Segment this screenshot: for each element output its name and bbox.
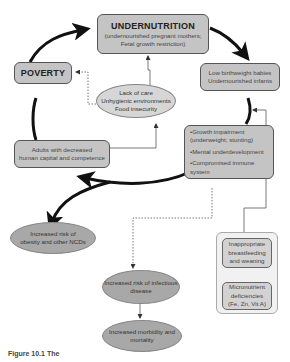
micronutrient-line-3: (Fe, Zn, Vit A) — [228, 300, 266, 308]
causes-line-2: Unhygienic environments — [101, 97, 170, 105]
morbidity-line-1: Increased morbidity and — [109, 328, 175, 336]
infectious-line-1: Increased risk of infectious — [104, 279, 177, 287]
node-obesity-risk: Increased risk of obesity and other NCDs — [10, 222, 96, 254]
micronutrient-line-2: deficiencies — [231, 292, 263, 300]
poverty-title: POVERTY — [21, 67, 65, 79]
node-breastfeeding: Inappropriate breastfeeding and weaning — [222, 238, 272, 268]
growth-bullet-1: •Growth impairment — [190, 128, 244, 136]
causes-line-3: Food insecurity — [115, 105, 157, 113]
cycle-arrow-growth-to-adults — [85, 172, 190, 183]
obesity-line-2: obesity and other NCDs — [20, 238, 86, 246]
adults-line-2: human capital and competence — [19, 154, 105, 162]
growth-bullet-1b: (underweight; stunting) — [190, 136, 253, 144]
node-causes: Lack of care Unhygienic environments Foo… — [96, 84, 176, 118]
cycle-arrow-lbw-to-growth — [246, 98, 250, 124]
link-growth-to-infectious — [133, 188, 212, 268]
lbw-line-2: Undernourished infants — [208, 77, 272, 85]
link-causes-to-undernutrition — [148, 56, 150, 88]
breastfeeding-line-2: breastfeeding — [228, 249, 266, 257]
node-growth-impairment: •Growth impairment (underweight; stuntin… — [184, 125, 274, 179]
growth-bullet-2: •Mental underdevelopment — [190, 148, 264, 156]
breastfeeding-line-1: Inappropriate — [229, 240, 265, 248]
growth-bullet-3: •Compromised immune system — [190, 159, 273, 176]
node-low-birthweight: Low birthweight babies Undernourished in… — [200, 63, 280, 91]
cycle-arrow-poverty-to-undernutrition — [30, 30, 82, 62]
node-adults: Adults with decreased human capital and … — [14, 140, 110, 168]
node-undernutrition: UNDERNUTRITION (undernourished pregnant … — [97, 14, 209, 54]
undernutrition-line-2: Fetal growth restriction) — [121, 40, 186, 48]
adults-line-1: Adults with decreased — [32, 146, 93, 154]
branch-arrow-to-obesity — [52, 182, 110, 222]
undernutrition-line-1: (undernourished pregnant mothers; — [105, 32, 202, 40]
causes-line-1: Lack of care — [119, 89, 153, 97]
link-causes-to-poverty — [76, 72, 96, 104]
micronutrient-line-1: Micronutrient — [229, 283, 265, 291]
breastfeeding-line-3: and weaning — [229, 257, 264, 265]
node-poverty: POVERTY — [14, 62, 72, 84]
node-micronutrient: Micronutrient deficiencies (Fe, Zn, Vit … — [222, 282, 272, 310]
obesity-line-1: Increased risk of — [30, 230, 75, 238]
cycle-arrow-adults-to-poverty — [33, 98, 36, 140]
infectious-line-2: disease — [130, 287, 151, 295]
undernutrition-title: UNDERNUTRITION — [111, 20, 195, 32]
lbw-line-1: Low birthweight babies — [209, 69, 272, 77]
node-infectious-risk: Increased risk of infectious disease — [102, 270, 180, 304]
cycle-arrow-undernutrition-to-lbw — [210, 28, 244, 54]
figure-caption: Figure 10.1 The — [8, 350, 59, 357]
node-morbidity: Increased morbidity and mortality — [102, 320, 182, 352]
morbidity-line-2: mortality — [130, 336, 153, 344]
